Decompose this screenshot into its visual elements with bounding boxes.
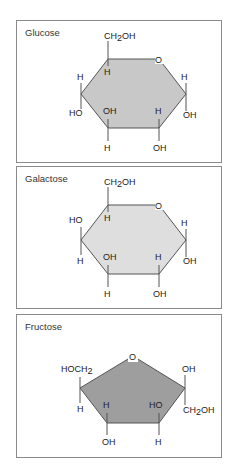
c2-up: OH xyxy=(182,364,196,374)
ch2oh-label: CH2OH xyxy=(183,405,215,417)
c3-up: OH xyxy=(103,252,117,262)
galactose-panel: Galactose O CH2OH H H OH HO H OH H H OH xyxy=(16,166,222,309)
c4-down: OH xyxy=(102,437,116,447)
c3-down: H xyxy=(155,437,162,447)
glucose-panel: Glucose O CH2OH H H OH H HO OH H H OH xyxy=(16,20,222,163)
glucose-structure: O CH2OH H H OH H HO OH H H OH xyxy=(17,21,223,164)
hoch2-label: HOCH2 xyxy=(61,364,93,376)
c2-up: H xyxy=(155,252,162,262)
glucose-ring xyxy=(81,59,186,128)
ring-oxygen: O xyxy=(155,55,162,65)
c5-h: H xyxy=(104,67,111,77)
fructose-structure: O HOCH2 H OH CH2OH H OH HO H xyxy=(17,315,223,459)
c4-up: HO xyxy=(69,215,83,225)
galactose-structure: O CH2OH H H OH HO H OH H H OH xyxy=(17,167,223,310)
c4-up: H xyxy=(77,72,84,82)
c1-down: OH xyxy=(183,256,197,266)
ring-oxygen: O xyxy=(155,201,162,211)
c4-up: H xyxy=(103,400,110,410)
c2-down: OH xyxy=(153,143,167,153)
c2-down: OH xyxy=(153,289,167,299)
fructose-panel: Fructose O HOCH2 H OH CH2OH H OH HO H xyxy=(16,314,222,458)
c3-down: H xyxy=(104,143,111,153)
ring-oxygen: O xyxy=(129,352,136,362)
fructose-ring xyxy=(80,356,185,423)
c1-up: H xyxy=(181,218,188,228)
left-down: H xyxy=(77,404,84,414)
c3-up: HO xyxy=(149,400,163,410)
galactose-ring xyxy=(81,205,186,274)
c1-down: OH xyxy=(183,110,197,120)
c1-up: H xyxy=(181,72,188,82)
ch2oh-label: CH2OH xyxy=(104,177,136,189)
c2-up: H xyxy=(155,106,162,116)
c4-down: HO xyxy=(69,108,83,118)
c5-h: H xyxy=(104,213,111,223)
ch2oh-label: CH2OH xyxy=(104,31,136,43)
c3-up: OH xyxy=(103,106,117,116)
c3-down: H xyxy=(104,289,111,299)
c4-down: H xyxy=(77,256,84,266)
